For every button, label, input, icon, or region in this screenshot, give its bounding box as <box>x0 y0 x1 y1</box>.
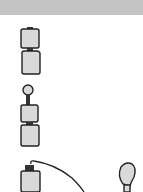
battery-icon <box>21 171 40 192</box>
bulb-icon <box>119 163 135 186</box>
bulb-base-icon <box>124 185 130 192</box>
battery-icon <box>21 29 39 48</box>
bulb-on-two-batteries <box>21 85 39 146</box>
circuit-diagram <box>0 0 143 192</box>
battery-icon <box>22 51 40 74</box>
two-batteries-stacked <box>21 27 40 74</box>
battery-icon <box>21 125 39 146</box>
battery-terminal-icon <box>25 165 34 171</box>
battery-icon <box>21 105 38 122</box>
bulb-base-icon <box>26 95 30 105</box>
battery-wired-to-bulb <box>21 161 135 192</box>
bulb-icon <box>23 85 33 95</box>
